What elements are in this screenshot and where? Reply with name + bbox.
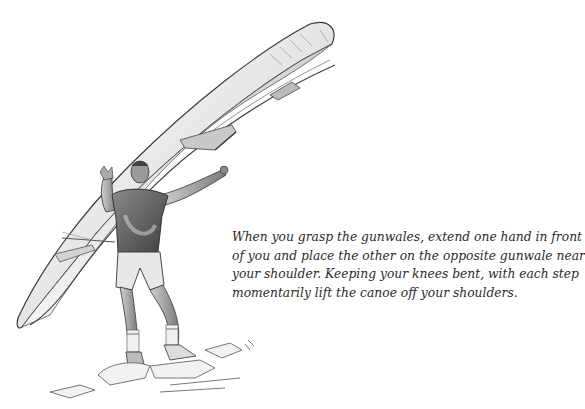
man-figure: [100, 161, 228, 366]
caption-line: momentarily lift the canoe off your shou…: [232, 284, 537, 303]
caption-line: of you and place the other on the opposi…: [232, 247, 537, 266]
caption-line: When you grasp the gunwales, extend one …: [232, 228, 537, 247]
rocks-ground: [50, 340, 254, 398]
illustration-caption: When you grasp the gunwales, extend one …: [232, 228, 537, 302]
caption-line: your shoulder. Keeping your knees bent, …: [232, 265, 537, 284]
